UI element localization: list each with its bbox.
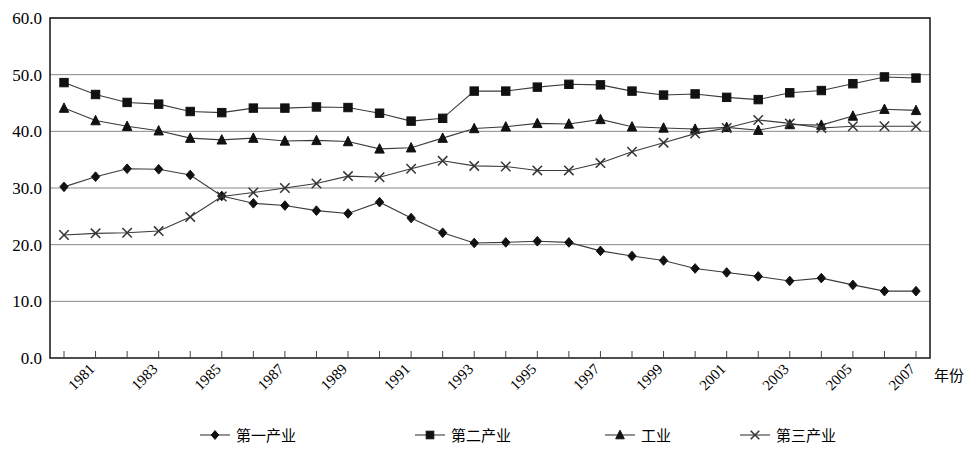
x-tick-label: 1997 bbox=[570, 360, 603, 393]
data-point-marker-diamond bbox=[60, 182, 68, 192]
x-axis-title-text: 年份 bbox=[934, 367, 964, 385]
x-tick-label: 1995 bbox=[507, 361, 540, 394]
data-point-marker-diamond bbox=[154, 165, 162, 175]
data-point-marker-square bbox=[344, 103, 352, 111]
data-point-marker-diamond bbox=[186, 170, 194, 180]
data-point-marker-square bbox=[438, 114, 446, 122]
x-tick-label: 2005 bbox=[822, 361, 855, 394]
x-tick-label: 2003 bbox=[759, 361, 792, 394]
data-point-marker-square bbox=[912, 74, 920, 82]
data-point-marker-square bbox=[849, 80, 857, 88]
data-point-marker-diamond bbox=[722, 268, 730, 278]
data-point-marker-triangle bbox=[249, 133, 258, 142]
data-point-marker-diamond bbox=[470, 238, 478, 248]
data-point-marker-diamond bbox=[596, 246, 604, 256]
legend-label: 第二产业 bbox=[451, 427, 511, 445]
data-point-marker-square bbox=[754, 95, 762, 103]
chart-container: 0.010.020.030.040.050.060.0 198119831985… bbox=[0, 0, 979, 449]
data-point-marker-square bbox=[426, 431, 434, 439]
x-tick-label: 1985 bbox=[191, 361, 224, 394]
data-point-marker-square bbox=[628, 87, 636, 95]
data-point-marker-diamond bbox=[438, 228, 446, 238]
series-diamond bbox=[60, 164, 920, 296]
data-point-marker-square bbox=[154, 100, 162, 108]
data-point-marker-square bbox=[722, 93, 730, 101]
data-point-marker-cross bbox=[406, 164, 415, 173]
y-tick-label: 30.0 bbox=[12, 179, 42, 198]
legend-label: 第一产业 bbox=[236, 427, 296, 445]
data-point-marker-square bbox=[249, 104, 257, 112]
data-point-marker-diamond bbox=[249, 199, 257, 209]
legend-item-3[interactable]: 工业 bbox=[605, 427, 671, 445]
x-tick-label: 1989 bbox=[318, 361, 351, 394]
data-point-marker-square bbox=[786, 89, 794, 97]
line-chart: 0.010.020.030.040.050.060.0 198119831985… bbox=[0, 0, 979, 449]
data-point-marker-triangle bbox=[91, 115, 100, 124]
y-tick-label: 0.0 bbox=[21, 349, 42, 368]
data-point-marker-triangle bbox=[880, 104, 889, 113]
data-point-marker-cross bbox=[627, 147, 636, 156]
legend-label: 工业 bbox=[641, 427, 671, 445]
data-point-marker-diamond bbox=[281, 201, 289, 211]
series-square bbox=[60, 73, 920, 126]
data-point-marker-square bbox=[281, 104, 289, 112]
data-point-marker-diamond bbox=[849, 280, 857, 290]
data-point-marker-diamond bbox=[817, 273, 825, 283]
data-point-marker-diamond bbox=[754, 272, 762, 282]
data-point-marker-diamond bbox=[659, 256, 667, 266]
data-point-marker-diamond bbox=[91, 172, 99, 182]
x-tick-label: 1991 bbox=[381, 361, 414, 394]
data-point-marker-diamond bbox=[407, 213, 415, 223]
x-tick-label: 1981 bbox=[65, 361, 98, 394]
legend-label: 第三产业 bbox=[776, 427, 836, 445]
data-point-marker-diamond bbox=[123, 164, 131, 174]
data-point-marker-square bbox=[659, 91, 667, 99]
data-point-marker-diamond bbox=[691, 264, 699, 274]
data-point-marker-diamond bbox=[211, 431, 219, 440]
data-point-marker-square bbox=[218, 108, 226, 116]
data-point-marker-square bbox=[312, 103, 320, 111]
x-tick-label: 1999 bbox=[633, 361, 666, 394]
data-point-marker-square bbox=[502, 87, 510, 95]
data-point-marker-cross bbox=[659, 138, 668, 147]
data-point-marker-square bbox=[186, 107, 194, 115]
data-point-marker-cross bbox=[596, 158, 605, 167]
data-point-marker-square bbox=[123, 98, 131, 106]
x-axis-tick-labels: 1981198319851987198919911993199519971999… bbox=[65, 360, 918, 393]
series-line bbox=[64, 169, 916, 291]
data-point-marker-diamond bbox=[786, 276, 794, 286]
x-tick-label: 1993 bbox=[444, 361, 477, 394]
data-point-marker-diamond bbox=[628, 251, 636, 261]
x-axis-title: 年份 bbox=[934, 367, 964, 385]
data-point-marker-square bbox=[470, 87, 478, 95]
y-tick-label: 20.0 bbox=[12, 236, 42, 255]
data-point-marker-diamond bbox=[565, 238, 573, 248]
legend-item-1[interactable]: 第一产业 bbox=[200, 427, 296, 445]
x-tick-label: 1987 bbox=[254, 360, 287, 393]
data-point-marker-square bbox=[533, 83, 541, 91]
data-point-marker-diamond bbox=[502, 238, 510, 248]
data-point-marker-triangle bbox=[533, 118, 542, 127]
data-point-marker-square bbox=[565, 80, 573, 88]
chart-legend: 第一产业第二产业工业第三产业 bbox=[200, 427, 836, 445]
y-tick-label: 40.0 bbox=[12, 122, 42, 141]
data-point-marker-diamond bbox=[312, 206, 320, 216]
data-point-marker-square bbox=[407, 117, 415, 125]
data-series-group bbox=[59, 73, 920, 296]
data-point-marker-diamond bbox=[375, 197, 383, 207]
x-tick-label: 1983 bbox=[128, 361, 161, 394]
data-point-marker-square bbox=[817, 86, 825, 94]
data-point-marker-square bbox=[596, 81, 604, 89]
y-tick-label: 50.0 bbox=[12, 66, 42, 85]
data-point-marker-square bbox=[880, 73, 888, 81]
data-point-marker-triangle bbox=[312, 135, 321, 144]
x-tick-label: 2001 bbox=[696, 361, 729, 394]
x-tick-label: 2007 bbox=[886, 360, 919, 393]
data-point-marker-diamond bbox=[880, 286, 888, 296]
y-axis-tick-labels: 0.010.020.030.040.050.060.0 bbox=[12, 9, 42, 368]
data-point-marker-triangle bbox=[596, 114, 605, 123]
legend-item-4[interactable]: 第三产业 bbox=[740, 427, 836, 445]
data-point-marker-square bbox=[691, 90, 699, 98]
gridlines-group bbox=[50, 18, 930, 301]
legend-item-2[interactable]: 第二产业 bbox=[415, 427, 511, 445]
